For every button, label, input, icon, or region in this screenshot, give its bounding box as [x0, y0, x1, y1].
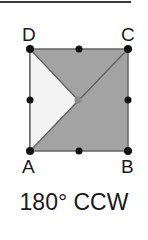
vertex-label-b: B — [121, 157, 134, 176]
vertex-dot-a — [26, 147, 34, 155]
vertex-dot-b — [124, 147, 132, 155]
center-point — [75, 97, 82, 104]
midpoint-dot-bottom — [76, 148, 83, 155]
vertex-dot-c — [124, 45, 132, 53]
vertex-dot-d — [26, 45, 34, 53]
midpoint-dot-top — [76, 46, 83, 53]
midpoint-dot-left — [27, 97, 34, 104]
rotation-caption: 180° CCW — [0, 190, 148, 214]
vertex-label-d: D — [22, 25, 36, 44]
vertex-label-a: A — [22, 157, 35, 176]
vertex-label-c: C — [121, 25, 135, 44]
midpoint-dot-right — [125, 97, 132, 104]
